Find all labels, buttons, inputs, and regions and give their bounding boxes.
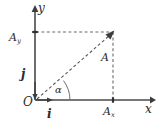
component-y-subscript: y (17, 37, 21, 45)
vector-a-group (37, 31, 115, 100)
x-axis-label: x (145, 103, 152, 115)
unit-vector-i-arrowhead (47, 97, 53, 102)
unit-vector-j-label: j (21, 68, 25, 80)
component-x-subscript: x (111, 111, 115, 119)
unit-vector-i-label: i (47, 108, 52, 120)
angle-arc-group (64, 81, 71, 100)
origin-label: O (23, 96, 33, 108)
vector-a-line (37, 35, 110, 99)
component-y-label: Ay (9, 32, 21, 44)
component-x-label: Ax (103, 106, 115, 118)
angle-label: α (55, 85, 62, 95)
angle-arc (64, 81, 71, 100)
axes-group (32, 5, 156, 103)
unit-vector-j-arrowhead (32, 94, 37, 100)
component-x-base: A (103, 105, 111, 118)
y-axis-label: y (38, 2, 45, 14)
vector-a-label: A (101, 52, 109, 63)
vector-diagram-figure: y x O Ay Ax A i j α (0, 0, 159, 128)
tick-marks-group (32, 32, 113, 103)
component-y-base: A (9, 31, 17, 44)
